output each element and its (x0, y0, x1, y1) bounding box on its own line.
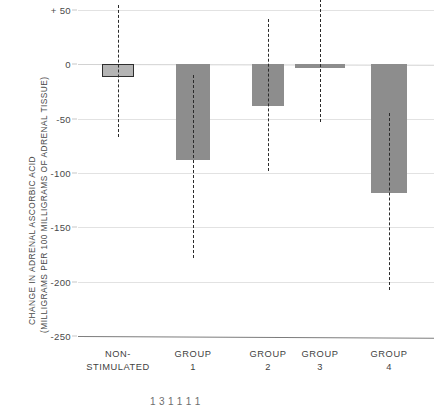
x-axis-label-non-stimulated: NON-STIMULATED (86, 348, 150, 373)
y-tick-mark-50 (72, 10, 77, 11)
x-axis-label-group-2: GROUP2 (250, 348, 287, 373)
y-tick-mark--150 (72, 227, 77, 228)
x-axis-label-group-4: GROUP4 (371, 348, 408, 373)
cropped-caption: 1 3 1 1 1 1 (150, 396, 420, 406)
x-axis-label-line1: GROUP (250, 349, 287, 359)
x-axis-label-line2: 4 (371, 361, 408, 374)
plot-area: + 500-50-100-150-200-250 (78, 10, 434, 336)
gridline--150 (78, 227, 434, 228)
error-bar-group-4 (389, 113, 390, 290)
y-tick-mark--100 (72, 173, 77, 174)
error-bar-group-1 (193, 75, 194, 258)
x-axis-label-line1: NON- (105, 349, 131, 359)
y-tick-mark--200 (72, 281, 77, 282)
error-bar-group-2 (268, 19, 269, 171)
error-bar-group-3 (320, 0, 321, 122)
chart-container: CHANGE IN ADRENAL ASCORBIC ACID (MILLIGR… (0, 0, 442, 406)
x-axis-label-line1: GROUP (302, 349, 339, 359)
y-tick-mark--250 (72, 336, 77, 337)
y-tick-label--50: -50 (56, 113, 71, 124)
x-axis-label-line2: STIMULATED (86, 361, 150, 374)
x-axis-label-group-1: GROUP1 (175, 348, 212, 373)
x-axis-label-line1: GROUP (175, 349, 212, 359)
x-axis-label-line2: 1 (175, 361, 212, 374)
y-tick-label-0: 0 (65, 59, 71, 70)
gridline--250 (78, 336, 434, 339)
y-tick-label--250: -250 (51, 331, 71, 342)
y-tick-label--200: -200 (51, 276, 71, 287)
x-axis-label-line2: 2 (250, 361, 287, 374)
y-axis-title-line2: (MILLIGRAMS PER 100 MILLIGRAMS OF ADRENA… (39, 76, 49, 333)
y-tick-mark--50 (72, 118, 77, 119)
y-tick-mark-0 (72, 64, 77, 65)
y-tick-label--150: -150 (51, 222, 71, 233)
x-axis-label-line2: 3 (302, 361, 339, 374)
y-axis-title-line1: CHANGE IN ADRENAL ASCORBIC ACID (27, 156, 37, 325)
y-tick-label-50: + 50 (51, 5, 71, 16)
gridline--200 (78, 282, 434, 283)
y-tick-label--100: -100 (51, 168, 71, 179)
y-axis-title: CHANGE IN ADRENAL ASCORBIC ACID (MILLIGR… (0, 0, 44, 340)
error-bar-non-stimulated (118, 5, 119, 138)
x-axis-label-line1: GROUP (371, 349, 408, 359)
x-axis-label-group-3: GROUP3 (302, 348, 339, 373)
gridline-50 (78, 10, 434, 11)
